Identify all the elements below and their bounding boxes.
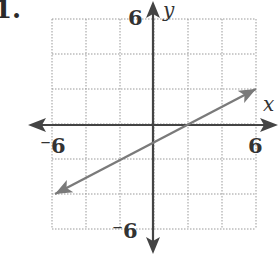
x-axis-label: x [263, 92, 274, 116]
y-min-tick-label: ⁻6 [112, 218, 138, 243]
y-axis-label: y [162, 0, 175, 22]
line-segment [55, 89, 256, 194]
coordinate-graph: y x 6 ⁻6 ⁻6 6 [0, 0, 280, 257]
plotted-line [55, 89, 256, 194]
y-max-tick-label: 6 [128, 5, 143, 30]
x-min-tick-label: ⁻6 [40, 133, 66, 158]
x-max-tick-label: 6 [248, 133, 263, 158]
y-axis [146, 1, 160, 254]
